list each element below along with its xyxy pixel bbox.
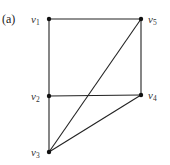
vertex-label-v1: v1	[31, 13, 40, 27]
vertex-v5	[139, 17, 143, 21]
vertex-label-v2: v2	[31, 90, 40, 104]
edge-v5-v3	[49, 19, 141, 152]
panel-label: (a)	[2, 12, 15, 26]
vertex-label-v4: v4	[148, 89, 157, 103]
vertex-v3	[47, 150, 51, 154]
edge-v2-v4	[49, 95, 141, 96]
graph-edges	[49, 19, 141, 152]
vertex-v1	[47, 17, 51, 21]
vertex-v2	[47, 94, 51, 98]
vertex-v4	[139, 93, 143, 97]
vertex-label-v3: v3	[31, 146, 40, 160]
vertex-label-v5: v5	[148, 13, 157, 27]
edge-v4-v3	[49, 95, 141, 152]
graph-diagram: (a) v1v2v3v4v5	[0, 0, 170, 165]
